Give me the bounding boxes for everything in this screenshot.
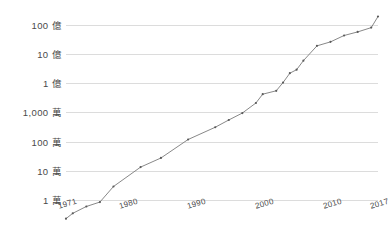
data-point xyxy=(262,93,264,95)
data-point xyxy=(289,72,291,74)
y-tick-label: 100 萬 xyxy=(32,135,63,149)
data-point xyxy=(370,27,372,29)
data-point xyxy=(316,45,318,47)
data-point xyxy=(241,112,243,114)
plot-area xyxy=(66,16,378,200)
y-tick-label: 10 億 xyxy=(37,47,62,61)
data-point xyxy=(255,102,257,104)
data-point xyxy=(112,185,114,187)
y-tick-label: 10 萬 xyxy=(37,164,62,178)
data-point xyxy=(228,119,230,121)
data-point xyxy=(160,157,162,159)
y-tick-label: 1 億 xyxy=(43,76,62,90)
series-line xyxy=(66,17,378,219)
data-point xyxy=(282,81,284,83)
y-tick-label: 1,000 萬 xyxy=(23,105,62,119)
x-axis: 197119801990200020102017 xyxy=(66,200,378,231)
y-tick-label: 100 億 xyxy=(32,18,63,32)
data-point xyxy=(275,90,277,92)
y-axis: 1 萬10 萬100 萬1,000 萬1 億10 億100 億 xyxy=(0,16,64,200)
data-point xyxy=(329,41,331,43)
series-line-chart xyxy=(66,16,378,200)
data-point xyxy=(343,34,345,36)
data-point xyxy=(302,60,304,62)
data-point xyxy=(187,138,189,140)
data-point xyxy=(140,166,142,168)
chart-root: 1 萬10 萬100 萬1,000 萬1 億10 億100 億 19711980… xyxy=(0,0,392,231)
data-point xyxy=(296,69,298,71)
data-point xyxy=(377,15,379,17)
data-point xyxy=(357,31,359,33)
data-point xyxy=(214,126,216,128)
